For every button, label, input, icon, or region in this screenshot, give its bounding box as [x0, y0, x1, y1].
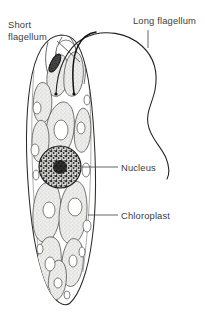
vacuole [33, 102, 41, 114]
vacuole [83, 220, 91, 232]
pyrenoid [54, 120, 68, 140]
label-long-flagellum: Long flagellum [133, 15, 196, 26]
vacuole [64, 291, 70, 299]
vacuole [84, 95, 90, 105]
basal-body-long [54, 92, 57, 95]
pyrenoid [45, 257, 55, 271]
vacuole [33, 170, 39, 180]
vacuole [31, 144, 39, 156]
euglena-diagram: Short flagellum Long flagellum Nucleus C… [0, 0, 205, 313]
basal-body-short [72, 92, 75, 95]
vacuole [37, 244, 43, 254]
pyrenoid [54, 278, 62, 288]
pyrenoid [69, 255, 77, 267]
pyrenoid [43, 202, 55, 218]
diagram-canvas: Short flagellum Long flagellum Nucleus C… [0, 0, 205, 313]
nucleolus [53, 160, 67, 174]
pyrenoid [68, 198, 82, 216]
vacuole [79, 247, 85, 257]
pyrenoid [77, 122, 85, 134]
label-short-flagellum-line2: flagellum [8, 31, 47, 42]
label-nucleus: Nucleus [121, 162, 156, 173]
vacuole [82, 163, 90, 177]
label-chloroplast: Chloroplast [121, 210, 170, 221]
label-short-flagellum-line1: Short [8, 19, 31, 30]
